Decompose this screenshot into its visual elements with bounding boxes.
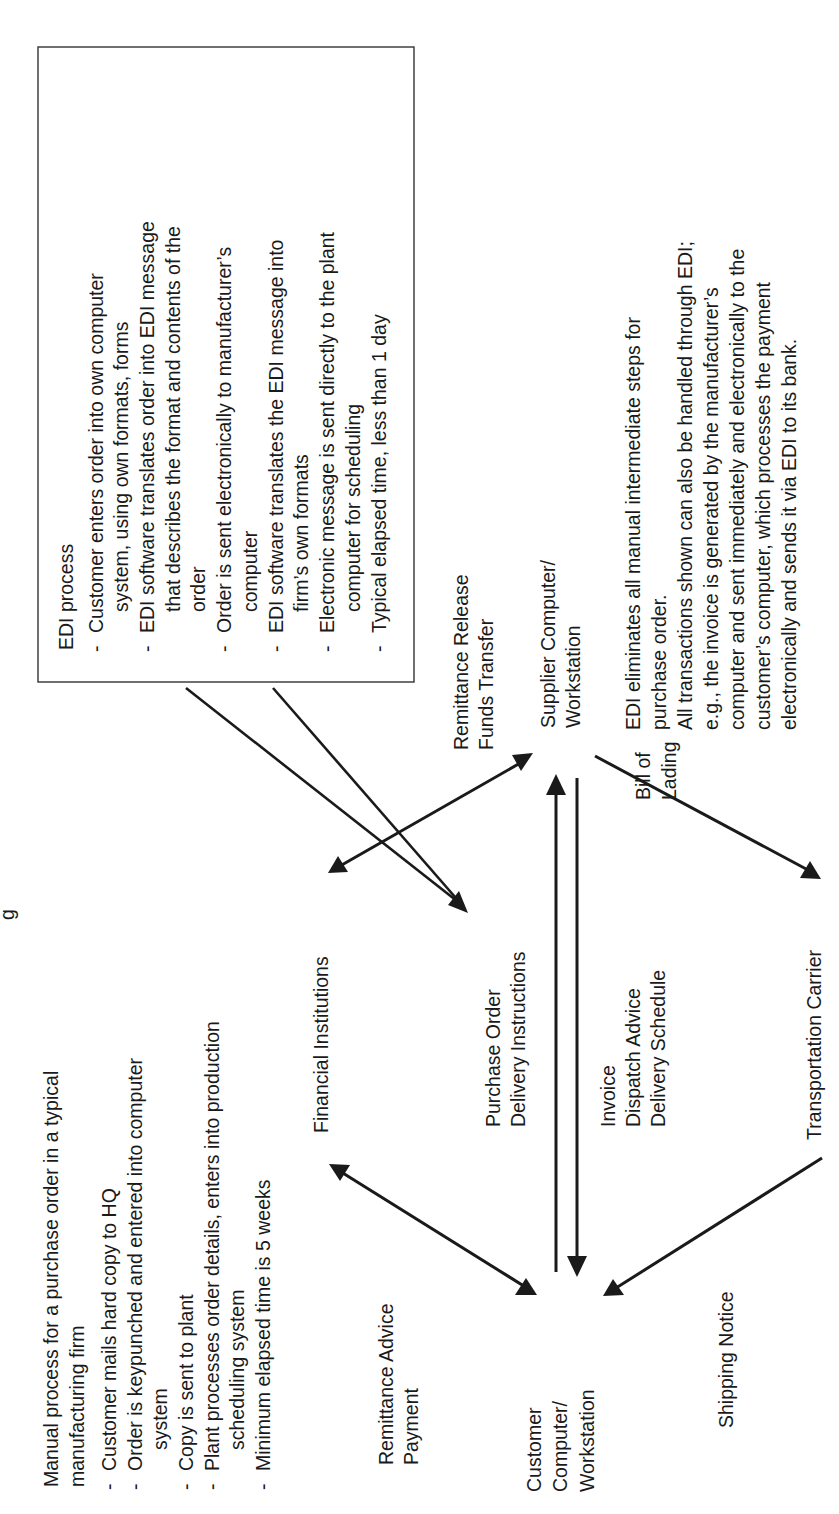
node-customer-line-1: Customer — [523, 1407, 545, 1492]
edi-process-heading: EDI process — [55, 544, 77, 650]
edi-note-line-3: All transactions shown can also be handl… — [674, 241, 696, 730]
manual-process-text: Manual process for a purchase order in a… — [40, 1021, 274, 1490]
arrow-carrier-customer — [616, 1158, 822, 1288]
label-invoice-line-3: Delivery Schedule — [647, 970, 669, 1127]
label-remittance-advice-line-1: Remittance Advice — [375, 1304, 397, 1466]
manual-heading-line-1: Manual process for a purchase order in a… — [40, 1071, 62, 1487]
bullet-dash: - — [265, 646, 287, 653]
bullet-dash: - — [213, 646, 235, 653]
arrow-supplier-carrier — [595, 756, 808, 870]
edi-bullet-1-line-2: system, using own formats, forms — [110, 321, 132, 612]
edi-note-line-5: computer and sent immediately and electr… — [726, 249, 748, 730]
arrowhead-up-icon — [546, 774, 566, 795]
label-remittance-release: Remittance Release Funds Transfer — [450, 574, 497, 750]
bullet-dash: - — [98, 1484, 120, 1491]
callout-line-2 — [273, 688, 462, 905]
bullet-dash: - — [252, 1484, 274, 1491]
manual-heading-line-2: manufacturing firm — [66, 1326, 88, 1487]
edi-bullet-3-line-2: computer — [239, 530, 261, 612]
manual-bullet-2-line-1: Order is keypunched and entered into com… — [124, 1057, 146, 1471]
edi-note-line-2: purchase order. — [648, 594, 670, 730]
bullet-dash: - — [136, 646, 158, 653]
arrow-supplier-financial — [340, 762, 522, 866]
arrowhead-financial-bottom-icon — [329, 1164, 350, 1181]
node-customer-line-2: Computer/ — [549, 1400, 571, 1492]
edi-note-line-6: customer’s computer, which processes the… — [752, 281, 774, 730]
label-remittance-advice: Remittance Advice Payment — [375, 1304, 422, 1466]
edi-bullet-4-line-1: EDI software translates the EDI message … — [265, 239, 287, 633]
manual-bullet-3: Copy is sent to plant — [175, 1294, 197, 1471]
node-customer-line-3: Workstation — [576, 1389, 598, 1492]
edi-bullet-2-line-3: order — [187, 566, 209, 612]
bullet-dash: - — [201, 1484, 223, 1491]
edi-bullet-2-line-1: EDI software translates order into EDI m… — [136, 221, 158, 633]
edi-bullet-1-line-1: Customer enters order into own computer — [85, 273, 107, 633]
bullet-dash: - — [175, 1484, 197, 1491]
edi-bullet-2-line-2: that describes the format and contents o… — [162, 226, 184, 612]
edi-bullet-5-line-2: computer for scheduling — [342, 404, 364, 612]
label-invoice-line-2: Dispatch Advice — [622, 988, 644, 1127]
bullet-dash: - — [368, 646, 390, 653]
label-purchase-order: Purchase Order Delivery Instructions — [482, 951, 529, 1127]
manual-bullet-2-line-2: system — [149, 1388, 171, 1450]
callout-line-1 — [186, 688, 462, 905]
label-invoice: Invoice Dispatch Advice Delivery Schedul… — [597, 970, 669, 1127]
arrowhead-down-icon — [567, 1256, 587, 1277]
label-remittance-advice-line-2: Payment — [400, 1387, 422, 1465]
node-financial-institutions: Financial Institutions — [310, 956, 332, 1133]
edi-note: EDI eliminates all manual intermediate s… — [622, 241, 800, 730]
edi-bullet-5-line-1: Electronic message is sent directly to t… — [316, 231, 338, 633]
label-remittance-release-line-1: Remittance Release — [450, 574, 472, 750]
edi-diagram: g EDI process - Customer enters order in… — [0, 0, 839, 1514]
node-customer: Customer Computer/ Workstation — [523, 1389, 598, 1492]
bullet-dash: - — [85, 646, 107, 653]
title-fragment: g — [0, 909, 18, 920]
node-transportation-carrier: Transportation Carrier — [803, 949, 825, 1140]
manual-bullet-4-line-2: scheduling system — [226, 1290, 248, 1450]
node-supplier-line-1: Supplier Computer/ — [537, 559, 559, 728]
manual-bullet-5: Minimum elapsed time is 5 weeks — [252, 1179, 274, 1471]
label-invoice-line-1: Invoice — [597, 1065, 619, 1127]
node-supplier: Supplier Computer/ Workstation — [537, 559, 584, 728]
manual-bullet-4-line-1: Plant processes order details, enters in… — [201, 1021, 223, 1471]
arrowhead-supplier-icon — [512, 753, 533, 771]
arrowhead-customer-right-icon — [603, 1279, 624, 1296]
label-shipping-notice: Shipping Notice — [715, 1291, 737, 1428]
edi-note-line-7: electronically and sends it via EDI to i… — [778, 339, 800, 730]
edi-note-line-4: e.g., the invoice is generated by the ma… — [700, 287, 722, 730]
edi-process-text: EDI process - Customer enters order into… — [55, 221, 390, 652]
label-bill-of-lading-line-1: Bill of — [632, 752, 654, 800]
arrowhead-customer-left-icon — [515, 1278, 537, 1295]
node-supplier-line-2: Workstation — [562, 625, 584, 728]
bullet-dash: - — [316, 646, 338, 653]
arrowhead-carrier-icon — [800, 861, 821, 879]
edi-bullet-4-line-2: firm’s own formats — [290, 454, 312, 612]
label-bill-of-lading: Bill of Lading — [632, 741, 680, 800]
manual-bullet-1: Customer mails hard copy to HQ — [98, 1188, 120, 1471]
label-purchase-order-line-1: Purchase Order — [482, 989, 504, 1127]
edi-bullet-3-line-1: Order is sent electronically to manufact… — [213, 247, 235, 633]
label-remittance-release-line-2: Funds Transfer — [475, 618, 497, 750]
arrow-financial-customer — [338, 1170, 527, 1288]
label-purchase-order-line-2: Delivery Instructions — [507, 951, 529, 1127]
edi-note-line-1: EDI eliminates all manual intermediate s… — [622, 317, 644, 730]
edi-bullet-6-line-1: Typical elapsed time, less than 1 day — [368, 314, 390, 633]
bullet-dash: - — [124, 1484, 146, 1491]
